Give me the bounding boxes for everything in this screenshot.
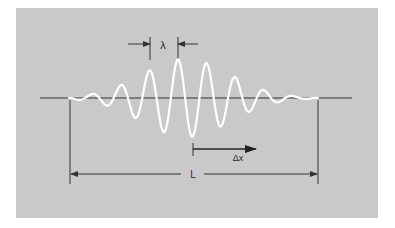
packet-length-label: L xyxy=(190,169,196,180)
displacement-marker: Δx xyxy=(193,143,256,163)
displacement-label: Δx xyxy=(233,153,244,163)
packet-length-marker: L xyxy=(70,100,318,184)
wave-packet-figure: λ Δx L xyxy=(0,0,395,228)
wavelength-marker: λ xyxy=(128,37,198,60)
wavelength-label: λ xyxy=(160,39,166,51)
